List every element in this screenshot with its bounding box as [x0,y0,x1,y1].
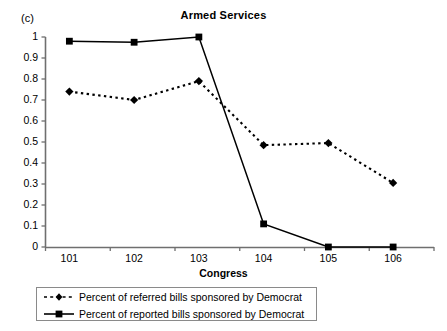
y-axis-tick-label: 0.9 [8,52,38,62]
x-axis-tick-label: 101 [39,252,99,264]
series-line [69,37,393,247]
data-point-marker [65,88,73,96]
axes [45,37,434,248]
legend-label-reported: Percent of reported bills sponsored by D… [76,308,304,320]
y-axis-tick-label: 0.4 [8,157,38,167]
data-point-marker [195,77,203,85]
legend-key-referred [42,291,76,303]
data-point-marker [260,141,268,149]
legend-item: Percent of reported bills sponsored by D… [37,305,316,322]
data-point-marker [130,96,138,104]
x-axis-tick-label: 104 [234,252,294,264]
data-series-layer [65,34,397,251]
data-point-marker [324,139,332,147]
x-axis-tick-label: 103 [169,252,229,264]
data-point-marker [260,221,267,228]
plot-svg [0,0,447,331]
data-point-marker [390,244,397,251]
x-axis-title: Congress [0,267,447,279]
data-point-marker [195,34,202,41]
y-axis-tick-label: 0 [8,241,38,251]
y-axis-tick-label: 0.3 [8,178,38,188]
data-point-marker [131,39,138,46]
y-axis-tick-label: 0.6 [8,115,38,125]
legend-item: Percent of referred bills sponsored by D… [37,288,316,305]
y-axis-tick-label: 0.1 [8,220,38,230]
chart-legend: Percent of referred bills sponsored by D… [36,287,317,321]
data-point-marker [66,38,73,45]
y-axis-tick-label: 0.7 [8,94,38,104]
chart-figure: (c) Armed Services 00.10.20.30.40.50.60.… [0,0,447,331]
legend-label-referred: Percent of referred bills sponsored by D… [76,291,302,303]
y-axis-tick-label: 0.5 [8,136,38,146]
y-axis-tick-label: 0.8 [8,73,38,83]
plot-area [0,0,447,331]
x-axis-tick-label: 106 [363,252,423,264]
legend-key-reported [42,308,76,320]
x-axis-tick-label: 105 [298,252,358,264]
y-axis-tick-label: 1 [8,31,38,41]
x-axis-tick-label: 102 [104,252,164,264]
data-point-marker [325,244,332,251]
y-axis-tick-label: 0.2 [8,199,38,209]
